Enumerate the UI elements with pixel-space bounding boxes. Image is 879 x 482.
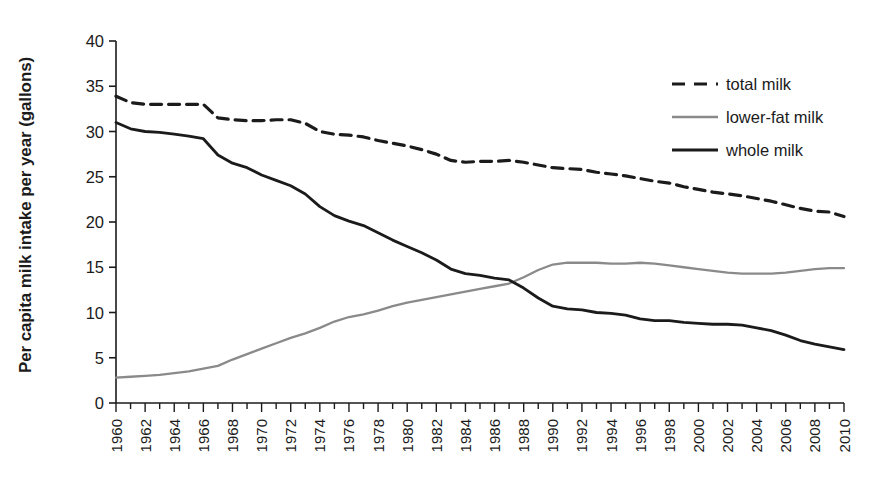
y-tick-label: 10 xyxy=(86,304,104,322)
series-line-lower-fat-milk xyxy=(116,263,844,378)
data-series-layer xyxy=(116,96,844,377)
y-tick-label: 20 xyxy=(86,213,104,231)
legend-label-total-milk: total milk xyxy=(726,75,792,93)
x-tick-label: 1990 xyxy=(544,419,561,452)
x-axis-ticks: 1960196219641966196819701972197419761978… xyxy=(108,403,853,452)
x-tick-label: 1978 xyxy=(370,419,387,452)
y-tick-label: 40 xyxy=(86,32,104,50)
y-tick-label: 30 xyxy=(86,123,104,141)
y-tick-label: 25 xyxy=(86,168,104,186)
x-tick-label: 1968 xyxy=(224,419,241,452)
chart-legend: total milklower-fat milkwhole milk xyxy=(672,75,824,159)
x-tick-label: 1980 xyxy=(399,419,416,452)
x-tick-label: 1974 xyxy=(311,419,328,452)
x-tick-label: 2010 xyxy=(836,419,853,452)
x-tick-label: 1964 xyxy=(166,419,183,452)
x-tick-label: 1998 xyxy=(661,419,678,452)
line-chart-plot: 0510152025303540 19601962196419661968197… xyxy=(0,0,879,482)
x-tick-label: 1992 xyxy=(573,419,590,452)
x-tick-label: 1966 xyxy=(195,419,212,452)
x-tick-label: 1996 xyxy=(632,419,649,452)
x-tick-label: 1984 xyxy=(457,419,474,452)
x-tick-label: 2006 xyxy=(777,419,794,452)
y-axis-ticks: 0510152025303540 xyxy=(86,32,116,412)
x-tick-label: 1982 xyxy=(428,419,445,452)
x-tick-label: 1960 xyxy=(108,419,125,452)
x-tick-label: 1976 xyxy=(340,419,357,452)
y-tick-label: 15 xyxy=(86,258,104,276)
x-tick-label: 1988 xyxy=(515,419,532,452)
x-tick-label: 1970 xyxy=(253,419,270,452)
y-tick-label: 0 xyxy=(95,394,104,412)
x-tick-label: 1986 xyxy=(486,419,503,452)
x-tick-label: 2000 xyxy=(690,419,707,452)
y-tick-label: 5 xyxy=(95,349,104,367)
chart-figure: Per capita milk intake per year (gallons… xyxy=(0,0,879,482)
x-tick-label: 2002 xyxy=(719,419,736,452)
axis-lines xyxy=(116,41,844,403)
x-tick-label: 1994 xyxy=(603,419,620,452)
x-tick-label: 1962 xyxy=(137,419,154,452)
x-tick-label: 2008 xyxy=(806,419,823,452)
legend-label-lower-fat-milk: lower-fat milk xyxy=(726,108,824,126)
y-tick-label: 35 xyxy=(86,77,104,95)
legend-label-whole-milk: whole milk xyxy=(725,141,804,159)
x-tick-label: 1972 xyxy=(282,419,299,452)
x-tick-label: 2004 xyxy=(748,419,765,452)
